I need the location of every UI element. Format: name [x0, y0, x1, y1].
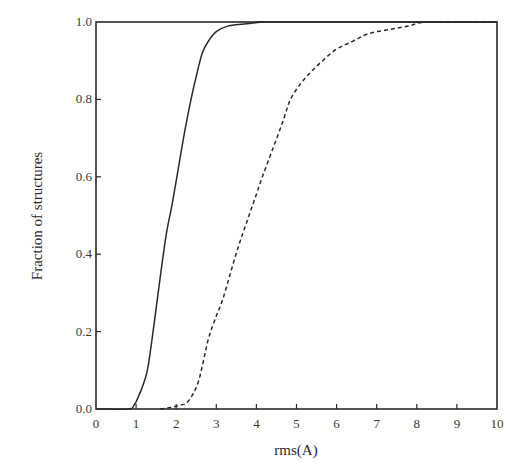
x-tick-label: 9	[454, 416, 461, 431]
x-tick-label: 1	[133, 416, 140, 431]
y-tick-label: 1.0	[76, 14, 92, 29]
y-tick-label: 0.6	[76, 169, 93, 184]
y-tick-label: 0.8	[76, 91, 92, 106]
x-tick-label: 5	[293, 416, 300, 431]
series-layer	[96, 22, 497, 410]
x-tick-label: 10	[491, 416, 504, 431]
x-tick-label: 4	[253, 416, 260, 431]
y-axis-ticks: 0.00.20.40.60.81.0	[76, 14, 101, 416]
series-line-solid	[96, 22, 497, 409]
x-tick-label: 8	[414, 416, 421, 431]
series-line-dashed	[160, 22, 497, 409]
y-tick-label: 0.4	[76, 246, 93, 261]
x-tick-label: 0	[93, 416, 100, 431]
cdf-chart: 012345678910 0.00.20.40.60.81.0 rms(A) F…	[0, 0, 520, 470]
x-tick-label: 7	[373, 416, 380, 431]
x-axis-ticks: 012345678910	[93, 404, 504, 431]
y-tick-label: 0.0	[76, 401, 92, 416]
y-tick-label: 0.2	[76, 324, 92, 339]
y-axis-label: Fraction of structures	[29, 152, 45, 280]
x-axis-label: rms(A)	[274, 442, 317, 459]
x-tick-label: 2	[173, 416, 180, 431]
x-tick-label: 3	[213, 416, 220, 431]
plot-frame	[96, 22, 497, 409]
x-tick-label: 6	[333, 416, 340, 431]
